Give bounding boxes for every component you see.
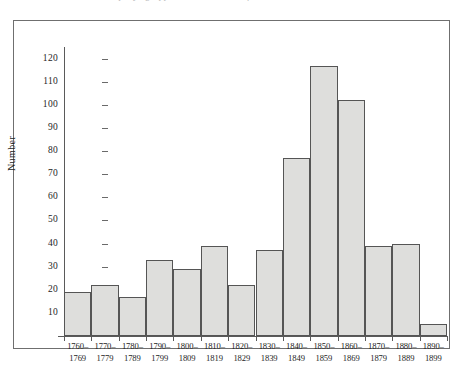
x-axis-tick-label-line: 1829: [228, 353, 255, 365]
x-axis-tick-label: 1860–1869: [338, 341, 365, 364]
x-axis-tick-label: 1880–1889: [392, 341, 419, 364]
y-axis-tick-label: 30: [16, 262, 58, 272]
x-axis-tick-label-line: 1869: [338, 353, 365, 365]
x-axis-tick-label-line: 1809: [173, 353, 200, 365]
x-axis-tick-label-line: 1860–: [338, 341, 365, 353]
x-axis-tick-label-line: 1779: [91, 353, 118, 365]
y-axis-tick-label: 40: [16, 239, 58, 249]
x-axis-tick-label-line: 1889: [392, 353, 419, 365]
x-axis-tick-label-line: 1879: [365, 353, 392, 365]
x-axis-tick-label-line: 1789: [119, 353, 146, 365]
x-axis-tick-label-line: 1780–: [119, 341, 146, 353]
histogram-bars: [64, 47, 447, 336]
x-axis-tick-label-line: 1819: [201, 353, 228, 365]
histogram-bar: [310, 66, 337, 337]
clipped-caption-text: mpany ng Appendix 1: Numbers of ... 1760…: [112, 0, 325, 1]
histogram-bar: [201, 246, 228, 336]
x-axis-tick-label: 1760–1769: [64, 341, 91, 364]
x-axis-tick-label-line: 1899: [420, 353, 447, 365]
y-axis-tick-label: 20: [16, 285, 58, 295]
y-axis-tick-label: 90: [16, 123, 58, 133]
x-axis-tick-label: 1770–1779: [91, 341, 118, 364]
x-axis-labels: 1760–17691770–17791780–17891790–17991800…: [64, 341, 447, 367]
x-axis-tick-label-line: 1799: [146, 353, 173, 365]
histogram-bar: [228, 285, 255, 336]
x-axis-tick-label: 1790–1799: [146, 341, 173, 364]
x-axis-tick-label: 1800–1809: [173, 341, 200, 364]
figure-frame: Number 102030405060708090100110120 1760–…: [13, 20, 450, 349]
x-axis-tick-label-line: 1849: [283, 353, 310, 365]
y-axis-tick-label: 70: [16, 169, 58, 179]
x-axis-tick-label-line: 1810–: [201, 341, 228, 353]
x-axis-tick-label-line: 1770–: [91, 341, 118, 353]
histogram-bar: [256, 250, 283, 336]
x-axis-tick-label-line: 1890–: [420, 341, 447, 353]
x-axis-tick-label-line: 1850–: [310, 341, 337, 353]
x-axis-tick-label-line: 1820–: [228, 341, 255, 353]
histogram-bar: [173, 269, 200, 336]
x-axis-tick-label-line: 1880–: [392, 341, 419, 353]
histogram-bar: [283, 158, 310, 336]
x-axis-tick-label: 1820–1829: [228, 341, 255, 364]
histogram-bar: [365, 246, 392, 336]
x-axis-tick-label-line: 1830–: [256, 341, 283, 353]
x-axis-tick-label: 1870–1879: [365, 341, 392, 364]
histogram-bar: [338, 100, 365, 336]
x-axis-tick-label-line: 1760–: [64, 341, 91, 353]
y-axis-tick-label: 50: [16, 215, 58, 225]
x-axis-tick-label-line: 1870–: [365, 341, 392, 353]
x-axis-tick-label: 1850–1859: [310, 341, 337, 364]
x-axis-tick-label: 1810–1819: [201, 341, 228, 364]
y-axis-tick-label: 110: [16, 77, 58, 87]
histogram-bar: [91, 285, 118, 336]
y-axis-tick-label: 10: [16, 308, 58, 318]
x-axis-tick-mark: [447, 336, 448, 341]
histogram-bar: [420, 324, 447, 336]
y-axis-labels: 102030405060708090100110120: [14, 21, 58, 350]
histogram-bar: [392, 244, 419, 336]
x-axis-tick-label-line: 1800–: [173, 341, 200, 353]
y-axis-tick-label: 60: [16, 192, 58, 202]
x-axis-tick-label: 1840–1849: [283, 341, 310, 364]
x-axis-tick-label-line: 1839: [256, 353, 283, 365]
histogram-bar: [64, 292, 91, 336]
x-axis-tick-label: 1890–1899: [420, 341, 447, 364]
x-axis-tick-label-line: 1769: [64, 353, 91, 365]
y-axis-tick-label: 80: [16, 146, 58, 156]
x-axis-tick-label: 1830–1839: [256, 341, 283, 364]
histogram-bar: [119, 297, 146, 336]
clipped-caption-strip: mpany ng Appendix 1: Numbers of ... 1760…: [0, 0, 463, 11]
y-axis-tick-label: 120: [16, 54, 58, 64]
y-axis-tick-label: 100: [16, 100, 58, 110]
x-axis-tick-label: 1780–1789: [119, 341, 146, 364]
x-axis-tick-label-line: 1840–: [283, 341, 310, 353]
x-axis-tick-label-line: 1790–: [146, 341, 173, 353]
histogram-bar: [146, 260, 173, 336]
chart-page: mpany ng Appendix 1: Numbers of ... 1760…: [0, 0, 463, 367]
x-axis-tick-label-line: 1859: [310, 353, 337, 365]
